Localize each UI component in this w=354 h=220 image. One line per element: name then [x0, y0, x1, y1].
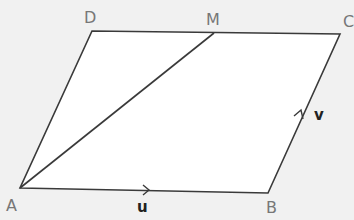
vector-label-v: v	[314, 108, 324, 123]
label-a: A	[6, 198, 17, 214]
label-b: B	[266, 200, 277, 216]
vector-label-u: u	[137, 200, 148, 215]
parallelogram-abcd	[20, 31, 340, 193]
label-d: D	[84, 10, 96, 26]
label-m: M	[206, 12, 220, 28]
label-c: C	[343, 14, 354, 30]
